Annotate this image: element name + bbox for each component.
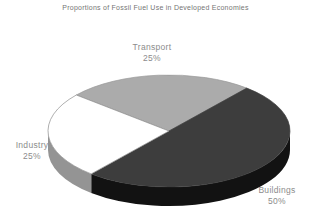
slice-callout-transport: Transport 25% [133,42,172,64]
chart-figure: Proportions of Fossil Fuel Use in Develo… [0,0,311,220]
slice-callout-industry: Industry 25% [16,140,49,162]
slice-value-transport: 25% [133,53,172,64]
slice-label-transport: Transport [133,42,172,53]
slice-label-industry: Industry [16,140,49,151]
slice-value-industry: 25% [16,151,49,162]
slice-value-buildings: 50% [258,196,295,207]
slice-label-buildings: Buildings [258,185,295,196]
slice-callout-buildings: Buildings 50% [258,185,295,207]
